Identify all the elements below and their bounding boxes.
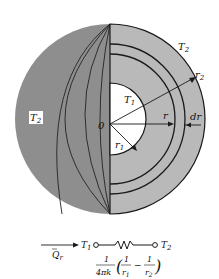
heat-flow-label: Qr <box>52 250 63 262</box>
resistance-denominator: 4πk <box>95 268 111 277</box>
sphere-diagram: 0 T2 T1 T2 r2 r dr r1 Qr T1 T2 1 4πk ( 1… <box>0 0 219 279</box>
dr-label: dr <box>190 111 202 122</box>
outer-temp-label: T2 <box>178 41 190 54</box>
frac1-denominator: r1 <box>122 268 130 278</box>
frac2-denominator: r2 <box>145 268 153 278</box>
node2 <box>153 243 158 248</box>
node1 <box>94 243 99 248</box>
paren-close: ) <box>154 257 161 276</box>
resistor <box>99 241 153 249</box>
frac2-numerator: 1 <box>147 255 152 264</box>
minus-sign: − <box>134 260 142 270</box>
center-label: 0 <box>98 120 105 131</box>
frac1-numerator: 1 <box>124 255 129 264</box>
node2-label: T2 <box>161 240 172 252</box>
node1-label: T1 <box>81 240 91 252</box>
heat-flow-arrowhead <box>73 243 79 248</box>
resistance-numerator: 1 <box>104 255 109 264</box>
